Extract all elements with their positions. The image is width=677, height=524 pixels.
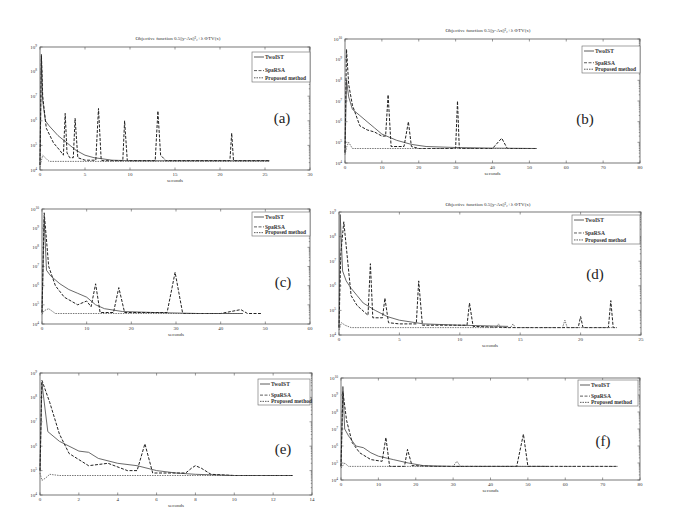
x-tick-label: 10: [232, 497, 238, 502]
panel-label: (e): [275, 441, 292, 458]
y-tick-label: 1010: [330, 375, 339, 381]
x-tick-label: 60: [308, 326, 314, 331]
legend: TwoISTSpaRSAProposed method: [258, 379, 312, 405]
x-tick-label: 60: [563, 482, 569, 487]
legend-label: SpaRSA: [265, 67, 285, 73]
series-line-sparsa: [341, 392, 618, 467]
legend-label: TwoIST: [265, 214, 284, 220]
legend: TwoISTSpaRSAProposed method: [252, 52, 310, 82]
x-tick-label: 15: [173, 172, 179, 177]
legend-label: TwoIST: [265, 54, 284, 60]
legend-label: TwoIST: [595, 48, 614, 54]
x-tick-label: 50: [527, 165, 533, 170]
x-axis-label: seconds: [483, 488, 499, 493]
series-line-proposed-method: [345, 142, 537, 154]
y-tick-label: 108: [331, 409, 338, 415]
y-tick-label: 106: [30, 117, 37, 123]
series-line-twoist: [42, 219, 243, 314]
series-line-sparsa: [345, 49, 537, 152]
x-tick-label: 30: [308, 172, 314, 177]
legend-label: Proposed method: [591, 399, 632, 405]
legend: TwoISTSpaRSAProposed method: [578, 380, 638, 406]
x-tick-label: 50: [263, 326, 269, 331]
y-tick-label: 106: [30, 443, 37, 449]
x-tick-label: 5: [398, 337, 401, 342]
y-tick-label: 107: [30, 93, 37, 99]
x-tick-label: 40: [488, 482, 494, 487]
y-tick-label: 109: [30, 370, 37, 376]
x-tick-label: 0: [41, 326, 44, 331]
y-tick-label: 108: [329, 233, 336, 239]
y-tick-label: 106: [32, 282, 39, 288]
x-axis-label: seconds: [168, 332, 184, 337]
y-tick-label: 104: [32, 321, 39, 327]
panel-label: (b): [576, 111, 594, 128]
x-tick-label: 10: [128, 172, 134, 177]
legend: TwoISTSpaRSAProposed method: [572, 215, 640, 244]
y-tick-label: 107: [30, 418, 37, 424]
x-tick-label: 0: [338, 337, 341, 342]
series-line-twoist: [345, 80, 537, 152]
y-tick-label: 104: [30, 167, 37, 173]
chart-panel-f: 010203040506070801041051061071081091010s…: [330, 375, 644, 494]
y-tick-label: 105: [329, 307, 336, 313]
series-line-sparsa: [40, 380, 293, 475]
y-tick-label: 105: [30, 142, 37, 148]
series-line-twoist: [341, 387, 547, 467]
y-tick-label: 106: [329, 282, 336, 288]
x-tick-label: 50: [525, 482, 531, 487]
x-tick-label: 60: [564, 165, 570, 170]
y-tick-label: 107: [329, 258, 336, 264]
x-tick-label: 20: [413, 482, 419, 487]
legend-label: Proposed method: [265, 229, 306, 235]
y-tick-label: 108: [30, 68, 37, 74]
y-tick-label: 104: [335, 160, 342, 166]
x-tick-label: 25: [263, 172, 269, 177]
x-tick-label: 4: [116, 497, 119, 502]
legend-label: Proposed method: [595, 66, 636, 72]
chart-panel-c: 01020304050601041051061071081091010secon…: [31, 206, 314, 338]
y-tick-label: 104: [30, 492, 37, 498]
x-tick-label: 5: [84, 172, 87, 177]
y-tick-label: 107: [335, 98, 342, 104]
y-tick-label: 104: [331, 477, 338, 483]
y-tick-label: 108: [32, 244, 39, 250]
x-tick-label: 15: [518, 337, 524, 342]
y-tick-label: 107: [331, 426, 338, 432]
y-tick-label: 108: [335, 77, 342, 83]
chart-panel-a: 051015202530104105106107108109secondsObj…: [30, 36, 313, 183]
legend-label: TwoIST: [591, 382, 610, 388]
y-tick-label: 105: [32, 301, 39, 307]
y-tick-label: 106: [335, 118, 342, 124]
series-line-twoist: [339, 215, 508, 328]
y-tick-label: 105: [335, 139, 342, 145]
y-tick-label: 104: [329, 332, 336, 338]
x-tick-label: 25: [639, 337, 645, 342]
y-tick-label: 105: [331, 460, 338, 466]
series-line-sparsa: [42, 213, 261, 314]
legend-label: TwoIST: [271, 381, 290, 387]
x-tick-label: 0: [344, 165, 347, 170]
y-tick-label: 105: [30, 467, 37, 473]
panel-label: (d): [586, 266, 604, 283]
chart-title: Objective function 0.5||y-Ax||²₂+λ ΦTV(x…: [445, 202, 530, 207]
figure-canvas: 051015202530104105106107108109secondsObj…: [0, 0, 677, 524]
y-tick-label: 109: [30, 44, 37, 50]
legend-label: SpaRSA: [271, 392, 291, 398]
panel-label: (f): [596, 433, 611, 450]
x-tick-label: 80: [638, 165, 644, 170]
y-tick-label: 1010: [31, 206, 40, 212]
x-tick-label: 20: [218, 172, 224, 177]
y-tick-label: 109: [329, 209, 336, 215]
x-tick-label: 40: [490, 165, 496, 170]
x-tick-label: 0: [39, 497, 42, 502]
x-axis-label: seconds: [482, 343, 498, 348]
y-tick-label: 109: [32, 225, 39, 231]
x-axis-label: seconds: [167, 178, 183, 183]
x-axis-label: seconds: [485, 171, 501, 176]
legend-label: SpaRSA: [591, 393, 611, 399]
y-tick-label: 109: [331, 392, 338, 398]
series-line-proposed-method: [40, 155, 270, 167]
y-tick-label: 108: [30, 394, 37, 400]
x-tick-label: 10: [457, 337, 463, 342]
